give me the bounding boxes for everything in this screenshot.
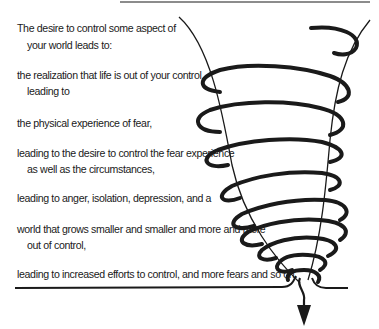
step-2-line-1: the realization that life is out of your… <box>17 69 204 81</box>
step-5-line-1: leading to anger, isolation, depression,… <box>17 192 211 204</box>
spiral-diagram: The desire to control some aspect of you… <box>0 0 379 329</box>
arrow-down-icon <box>297 305 311 326</box>
step-2-line-2: leading to <box>17 85 69 97</box>
spiral-coil-4 <box>222 172 340 200</box>
step-3-line-1: the physical experience of fear, <box>17 117 152 129</box>
step-1-line-1: The desire to control some aspect of <box>17 22 176 34</box>
step-7-line-1: leading to increased efforts to control,… <box>17 268 297 280</box>
spiral-coil-1 <box>203 66 349 102</box>
step-6-line-2: out of control, <box>17 239 86 251</box>
step-6-line-1: world that grows smaller and smaller and… <box>17 223 265 235</box>
spiral-coil-2 <box>198 102 343 135</box>
spiral-coil-0 <box>311 27 357 54</box>
step-4-line-2: as well as the circumstances, <box>17 163 155 175</box>
step-1-line-2: your world leads to: <box>17 39 112 51</box>
step-4-line-1: leading to the desire to control the fea… <box>17 147 234 159</box>
